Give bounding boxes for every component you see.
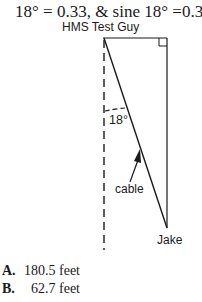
answer-a: A.180.5 feet [2,263,80,279]
answer-b-text: 62.7 feet [31,281,80,296]
bottom-label: Jake [157,233,182,247]
angle-arc-icon [105,108,125,111]
angle-label: 18° [109,113,128,127]
answer-a-text: 180.5 feet [24,263,80,278]
answer-b-letter: B. [2,281,31,297]
cable-arrow-shaft [130,160,138,182]
triangle-diagram [0,0,202,302]
cable-arrow-head-icon [134,149,141,163]
top-label: HMS Test Guy [62,20,139,34]
answer-a-letter: A. [2,263,24,279]
cable-label: cable [115,182,144,196]
answer-b: B.62.7 feet [2,281,80,297]
right-angle-marker-icon [159,38,167,46]
cable-line [104,38,167,228]
